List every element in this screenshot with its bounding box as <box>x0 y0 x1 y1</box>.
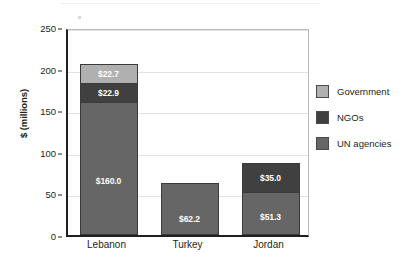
bar-group-turkey[interactable]: $62.2 <box>161 183 219 235</box>
legend-item-ngos[interactable]: NGOs <box>316 104 408 130</box>
bar-value-label: $35.0 <box>260 173 281 183</box>
y-axis-tick-mark <box>58 195 62 196</box>
y-axis-tick-mark <box>58 112 62 113</box>
bar-value-label: $62.2 <box>179 214 200 224</box>
bar-series-container: $160.0$22.9$22.7$62.2$51.3$35.0 <box>68 30 308 235</box>
y-axis-tick-label: 100 <box>40 149 56 159</box>
bar-value-label: $51.3 <box>260 212 281 222</box>
x-axis-tick-label-lebanon: Lebanon <box>87 239 126 250</box>
bar-segment-turkey-un-agencies[interactable]: $62.2 <box>161 183 219 235</box>
legend-swatch-icon <box>316 85 329 98</box>
legend-swatch-icon <box>316 111 329 124</box>
bar-segment-lebanon-government[interactable]: $22.7 <box>80 64 138 83</box>
legend-label: Government <box>337 86 389 97</box>
y-axis-tick-labels: 050100150200250 <box>26 29 62 237</box>
x-axis-tick-label-turkey: Turkey <box>172 239 202 250</box>
y-axis-tick-label: 150 <box>40 107 56 117</box>
legend-label: NGOs <box>337 112 363 123</box>
legend: GovernmentNGOsUN agencies <box>316 78 408 156</box>
bar-value-label: $160.0 <box>96 176 121 186</box>
top-rule <box>60 3 320 4</box>
legend-item-government[interactable]: Government <box>316 78 408 104</box>
y-axis-tick-mark <box>58 70 62 71</box>
bar-value-label: $22.9 <box>98 88 119 98</box>
bar-group-jordan[interactable]: $51.3$35.0 <box>242 163 300 235</box>
plot-area: $160.0$22.9$22.7$62.2$51.3$35.0 <box>66 29 309 237</box>
y-axis-tick-label: 250 <box>40 24 56 34</box>
bar-segment-jordan-ngos[interactable]: $35.0 <box>242 163 300 192</box>
legend-item-un-agencies[interactable]: UN agencies <box>316 130 408 156</box>
y-axis-tick-mark <box>58 153 62 154</box>
bar-segment-jordan-un-agencies[interactable]: $51.3 <box>242 192 300 235</box>
x-axis-tick-labels: LebanonTurkeyJordan <box>66 239 309 256</box>
stray-mark <box>78 16 81 19</box>
y-axis-tick-label: 200 <box>40 66 56 76</box>
x-axis-tick-label-jordan: Jordan <box>253 239 284 250</box>
legend-label: UN agencies <box>337 138 391 149</box>
y-axis-tick-label: 0 <box>51 232 56 242</box>
stacked-bar-chart: $ (millions) 050100150200250 $160.0$22.9… <box>0 0 410 256</box>
legend-swatch-icon <box>316 137 329 150</box>
y-axis-tick-mark <box>58 237 62 238</box>
bar-segment-lebanon-ngos[interactable]: $22.9 <box>80 83 138 102</box>
y-axis-tick-mark <box>58 29 62 30</box>
bar-segment-lebanon-un-agencies[interactable]: $160.0 <box>80 102 138 235</box>
bar-value-label: $22.7 <box>98 69 119 79</box>
bar-group-lebanon[interactable]: $160.0$22.9$22.7 <box>80 64 138 235</box>
y-axis-tick-label: 50 <box>45 191 56 201</box>
